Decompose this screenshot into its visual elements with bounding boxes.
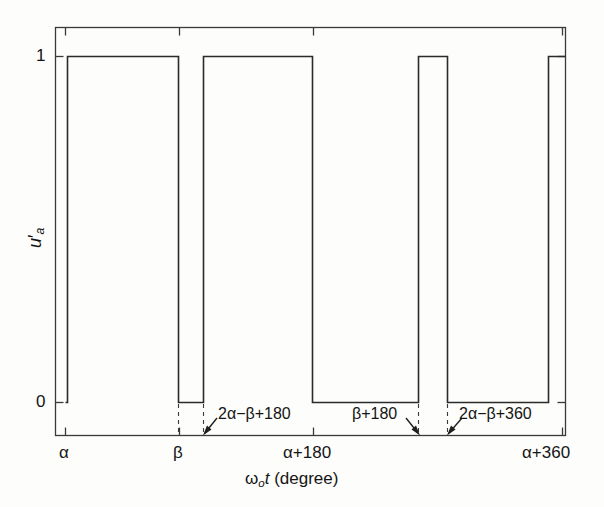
- x-tick-label-beta: β: [173, 444, 183, 461]
- annotation-arrow-2: [406, 418, 420, 436]
- y-axis-title-sub: a: [33, 228, 47, 235]
- x-axis-ticks: [66, 28, 563, 436]
- y-tick-label-0: 0: [36, 393, 45, 410]
- y-axis-title-prime: ′: [25, 235, 45, 238]
- x-tick-label-alpha-180: α+180: [283, 444, 331, 461]
- x-axis-title: ωot (degree): [245, 470, 338, 490]
- y-axis-ticks: [56, 57, 566, 403]
- x-axis-title-unit: (degree): [269, 469, 338, 488]
- annotation-2alpha-beta-180: 2α−β+180: [218, 406, 291, 422]
- figure-canvas: 1 0 u′a α β α+180 α+360 2α−β+180 β+180 2…: [0, 0, 604, 507]
- annotation-2alpha-beta-360: 2α−β+360: [459, 406, 532, 422]
- waveform-plot: [0, 0, 604, 507]
- y-axis-title-u: u: [25, 238, 45, 248]
- waveform-trace: [66, 57, 566, 403]
- annotation-arrow-1: [203, 418, 217, 436]
- plot-frame: [56, 28, 566, 436]
- x-tick-label-alpha: α: [59, 444, 69, 461]
- x-axis-title-omega: ω: [245, 469, 258, 488]
- y-axis-title: u′a: [26, 228, 47, 248]
- y-tick-label-1: 1: [36, 47, 45, 64]
- x-tick-label-alpha-360: α+360: [522, 444, 570, 461]
- annotation-beta-180: β+180: [352, 406, 397, 422]
